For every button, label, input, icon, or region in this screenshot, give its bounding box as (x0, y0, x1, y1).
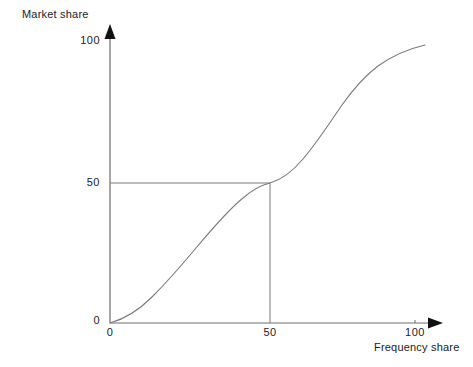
y-axis-arrow-icon (105, 24, 116, 39)
y-axis-tick-label-100: 100 (60, 34, 100, 47)
y-axis-title: Market share (22, 8, 89, 21)
y-axis-tick-label-0: 0 (60, 314, 100, 327)
x-axis-tick-label-0: 0 (96, 326, 124, 339)
s-curve-chart: Market share 100 50 0 0 50 100 Frequency… (0, 0, 473, 367)
axis-group (105, 24, 444, 329)
market-share-curve (110, 45, 425, 323)
x-axis-title: Frequency share (374, 341, 460, 354)
midpoint-reference-lines (110, 183, 270, 323)
x-axis-tick-label-50: 50 (256, 326, 284, 339)
x-axis-tick-label-100: 100 (399, 326, 431, 339)
y-axis-tick-label-50: 50 (60, 176, 100, 189)
